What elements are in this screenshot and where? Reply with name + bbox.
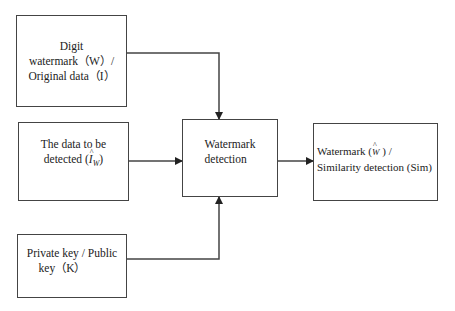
node-output: Watermark (W ) / Similarity detection (S… <box>313 123 438 201</box>
symbol-W-hat: W <box>372 145 380 160</box>
node-label: detection <box>205 152 256 167</box>
symbol-I-hat-W: (IW) <box>85 153 103 165</box>
node-key: Private key / Public key（K） <box>17 234 127 298</box>
node-label: Digit <box>28 39 114 54</box>
edge-key-to-detection <box>126 197 219 259</box>
node-watermark-original: Digit watermark（W）/ Original data（I） <box>16 15 127 107</box>
node-label: Original data（I） <box>28 69 114 84</box>
node-watermark-detection: Watermark detection <box>182 119 278 197</box>
node-label: Private key / Public <box>27 246 117 261</box>
node-label: The data to be <box>41 137 106 152</box>
node-label: key（K） <box>27 261 117 276</box>
node-label: Similarity detection (Sim) <box>317 160 432 175</box>
node-data-to-detect: The data to be detected (IW) <box>18 122 129 201</box>
node-label: ) / <box>380 145 392 157</box>
node-label: detected <box>44 153 82 165</box>
node-label: Watermark ( <box>317 145 372 157</box>
node-label: watermark（W）/ <box>28 54 114 69</box>
edge-watermark-to-detection <box>126 53 219 119</box>
node-label: Watermark <box>205 137 256 152</box>
